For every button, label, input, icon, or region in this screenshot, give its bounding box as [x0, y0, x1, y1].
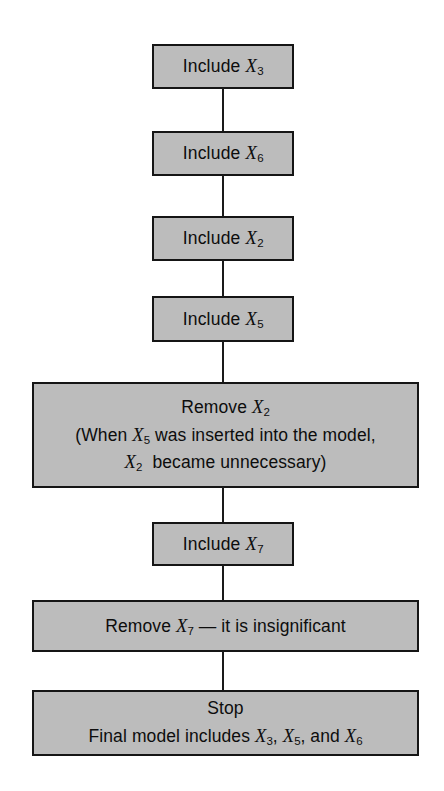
variable-subscript: 5 [257, 318, 263, 330]
connector-include-x3-to-include-x6 [222, 88, 224, 132]
variable-subscript: 7 [188, 625, 194, 637]
variable-x: X3 [255, 725, 273, 746]
node-label: Include X5 [183, 310, 264, 329]
label-text: was inserted into the model, [150, 425, 376, 445]
node-stop[interactable]: Stop Final model includes X3, X5, and X6 [32, 690, 419, 756]
label-text: (When [75, 425, 132, 445]
node-label: Include X6 [183, 144, 264, 163]
variable-x: X5 [132, 424, 150, 445]
variable-letter: X [246, 142, 257, 163]
node-label: Include X2 [183, 229, 264, 248]
label-text: Include [183, 534, 246, 554]
variable-letter: X [246, 533, 257, 554]
variable-x: X2 [124, 451, 142, 472]
variable-subscript: 2 [257, 237, 263, 249]
connector-include-x6-to-include-x2 [222, 175, 224, 217]
label-text: , [273, 726, 283, 746]
label-text: Include [183, 56, 246, 76]
label-text: became unnecessary) [147, 452, 326, 472]
node-label: Remove X7 — it is insignificant [105, 617, 345, 636]
label-text: , and [300, 726, 344, 746]
node-label: Include X3 [183, 57, 264, 76]
variable-subscript: 6 [257, 152, 263, 164]
variable-subscript: 2 [264, 406, 270, 418]
connector-include-x5-to-remove-x2 [222, 341, 224, 383]
label-text: Remove [181, 397, 252, 417]
variable-subscript: 6 [356, 735, 362, 747]
node-label-line-1: Stop [207, 700, 243, 718]
label-text: Include [183, 143, 246, 163]
node-include-x7[interactable]: Include X7 [152, 522, 294, 566]
variable-x: X7 [246, 533, 264, 554]
variable-subscript: 5 [294, 735, 300, 747]
node-remove-x2[interactable]: Remove X2 (When X5 was inserted into the… [32, 382, 419, 488]
variable-subscript: 2 [136, 461, 142, 473]
label-text: Remove [105, 616, 176, 636]
flowchart-canvas: Include X3 Include X6 Include X2 Include… [0, 0, 444, 791]
label-text: — it is insignificant [194, 616, 346, 636]
node-label-line-2: Final model includes X3, X5, and X6 [88, 727, 362, 746]
variable-subscript: 3 [267, 735, 273, 747]
variable-subscript: 5 [144, 434, 150, 446]
variable-x: X5 [246, 308, 264, 329]
node-include-x2[interactable]: Include X2 [152, 216, 294, 261]
variable-letter: X [252, 396, 263, 417]
node-label: Include X7 [183, 535, 264, 554]
node-include-x5[interactable]: Include X5 [152, 296, 294, 342]
label-text: Include [183, 309, 246, 329]
node-include-x6[interactable]: Include X6 [152, 131, 294, 176]
variable-x: X2 [246, 227, 264, 248]
node-label-line-3: X2 became unnecessary) [124, 453, 326, 472]
label-text: Include [183, 228, 246, 248]
variable-letter: X [255, 725, 266, 746]
variable-letter: X [246, 55, 257, 76]
variable-subscript: 3 [257, 65, 263, 77]
variable-letter: X [246, 308, 257, 329]
connector-remove-x2-to-include-x7 [222, 487, 224, 523]
connector-include-x2-to-include-x5 [222, 260, 224, 297]
connector-remove-x7-to-stop [222, 651, 224, 691]
variable-letter: X [132, 424, 143, 445]
node-include-x3[interactable]: Include X3 [152, 44, 294, 89]
node-label-line-1: Remove X2 [181, 398, 269, 417]
variable-x: X7 [176, 615, 194, 636]
node-label-line-2: (When X5 was inserted into the model, [75, 426, 375, 445]
variable-subscript: 7 [257, 543, 263, 555]
label-text: Final model includes [88, 726, 255, 746]
variable-x: X6 [345, 725, 363, 746]
variable-letter: X [246, 227, 257, 248]
variable-x: X5 [283, 725, 301, 746]
variable-x: X2 [252, 396, 270, 417]
node-remove-x7[interactable]: Remove X7 — it is insignificant [32, 600, 419, 652]
variable-letter: X [345, 725, 356, 746]
variable-x: X6 [246, 142, 264, 163]
variable-letter: X [176, 615, 187, 636]
connector-include-x7-to-remove-x7 [222, 565, 224, 601]
variable-letter: X [283, 725, 294, 746]
variable-letter: X [124, 451, 135, 472]
variable-x: X3 [246, 55, 264, 76]
